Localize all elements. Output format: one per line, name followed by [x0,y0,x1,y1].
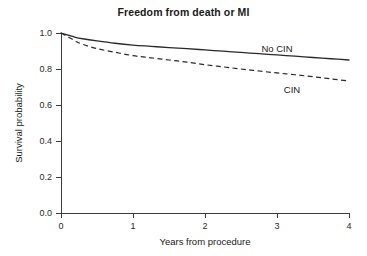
x-axis-ticks [61,213,349,218]
y-axis-title: Survival probability [13,83,24,163]
survival-plot: 0.0 0.2 0.4 0.6 0.8 1.0 0 1 2 3 4 Years … [0,0,367,256]
x-tick-label-3: 3 [274,221,279,231]
series-line-no-cin [61,33,349,60]
y-tick-label-3: 0.6 [39,100,52,110]
y-tick-label-5: 1.0 [39,28,52,38]
y-axis-tick-labels: 0.0 0.2 0.4 0.6 0.8 1.0 [39,28,52,218]
x-tick-label-4: 4 [346,221,351,231]
y-axis-ticks [56,33,61,213]
series-label-cin: CIN [284,84,301,95]
y-tick-label-1: 0.2 [39,172,52,182]
x-tick-label-0: 0 [58,221,63,231]
x-axis-tick-labels: 0 1 2 3 4 [58,221,351,231]
y-tick-label-4: 0.8 [39,64,52,74]
y-tick-label-0: 0.0 [39,208,52,218]
x-tick-label-1: 1 [130,221,135,231]
x-axis-title: Years from procedure [159,236,250,247]
series-label-no-cin: No CIN [261,43,292,54]
x-tick-label-2: 2 [202,221,207,231]
y-tick-label-2: 0.4 [39,136,52,146]
chart-figure: Freedom from death or MI 0.0 0.2 0.4 0.6… [0,0,367,256]
